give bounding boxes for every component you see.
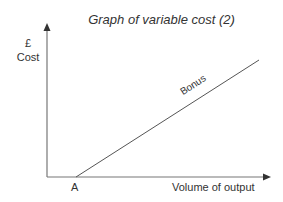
x-axis-arrow-icon [263, 174, 271, 181]
chart-plot [0, 0, 283, 202]
bonus-line [76, 60, 259, 177]
point-a-label: A [71, 181, 78, 193]
y-axis-arrow-icon [44, 23, 51, 31]
x-axis-title: Volume of output [172, 181, 255, 193]
